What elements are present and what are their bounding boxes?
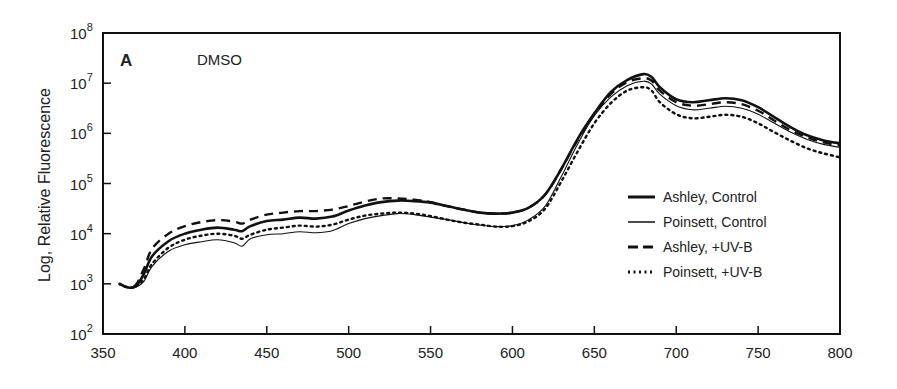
x-tick-label: 750 [746, 344, 771, 361]
y-tick-label: 105 [70, 172, 93, 193]
x-tick-label: 650 [582, 344, 607, 361]
legend-label: Ashley, +UV-B [663, 239, 753, 255]
series-line-2 [119, 78, 840, 287]
y-axis-label-group: Log, Relative Fluorescence [36, 88, 53, 282]
y-axis-label: Log, Relative Fluorescence [36, 88, 53, 282]
series-line-1 [119, 81, 840, 288]
legend-label: Poinsett, +UV-B [663, 264, 762, 280]
y-tick-label: 107 [70, 71, 93, 92]
legend: Ashley, ControlPoinsett, ControlAshley, … [628, 189, 767, 280]
y-tick-label: 106 [70, 121, 93, 142]
x-tick-label: 450 [254, 344, 279, 361]
chart-title: DMSO [197, 51, 242, 68]
x-tick-label: 800 [827, 344, 852, 361]
y-tick-label: 108 [70, 21, 93, 42]
plot-frame [103, 33, 840, 334]
y-tick-label: 103 [70, 272, 93, 293]
x-tick-label: 500 [336, 344, 361, 361]
x-tick-label: 400 [172, 344, 197, 361]
series-layer [119, 74, 840, 288]
x-tick-label: 600 [500, 344, 525, 361]
x-axis-ticks: 350400450500550600650700750800 [90, 326, 852, 361]
x-tick-label: 350 [90, 344, 115, 361]
panel-label: A [120, 51, 132, 70]
y-axis-ticks: 102103104105106107108 [70, 21, 111, 343]
series-line-3 [119, 87, 840, 287]
legend-label: Ashley, Control [663, 189, 757, 205]
legend-label: Poinsett, Control [663, 214, 767, 230]
fluorescence-chart: Log, Relative Fluorescence 1021031041051… [0, 0, 897, 389]
x-tick-label: 700 [664, 344, 689, 361]
y-tick-label: 104 [70, 222, 93, 243]
x-tick-label: 550 [418, 344, 443, 361]
y-tick-label: 102 [70, 322, 93, 343]
